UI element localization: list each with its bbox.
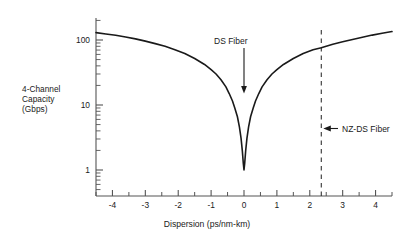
x-axis-title: Dispersion (ps/nm-km) [0, 219, 414, 229]
nz-ds-fiber-arrow-head [323, 126, 331, 132]
x-axis-tick-label: -4 [102, 200, 122, 210]
ds-fiber-arrow-head [241, 86, 247, 94]
y-axis-title-line-1: 4-Channel [22, 84, 84, 94]
x-axis-tick-label: -2 [168, 200, 188, 210]
x-axis-tick-label: 4 [366, 200, 386, 210]
annotation-label-ds-fiber: DS Fiber [214, 36, 248, 46]
y-axis-tick-label: 1 [64, 165, 90, 175]
y-axis-tick-label: 10 [64, 100, 90, 110]
x-axis-tick-label: -1 [201, 200, 221, 210]
chart-figure: 4-Channel Capacity (Gbps) 110100 -4-3-2-… [0, 0, 414, 243]
y-axis-tick-label: 100 [64, 35, 90, 45]
x-axis-tick-label: -3 [135, 200, 155, 210]
x-axis-tick-label: 1 [267, 200, 287, 210]
x-axis-tick-label: 3 [333, 200, 353, 210]
x-axis-tick-label: 2 [300, 200, 320, 210]
x-axis-tick-label: 0 [234, 200, 254, 210]
annotation-label-nz-ds-fiber: NZ-DS Fiber [342, 124, 390, 134]
